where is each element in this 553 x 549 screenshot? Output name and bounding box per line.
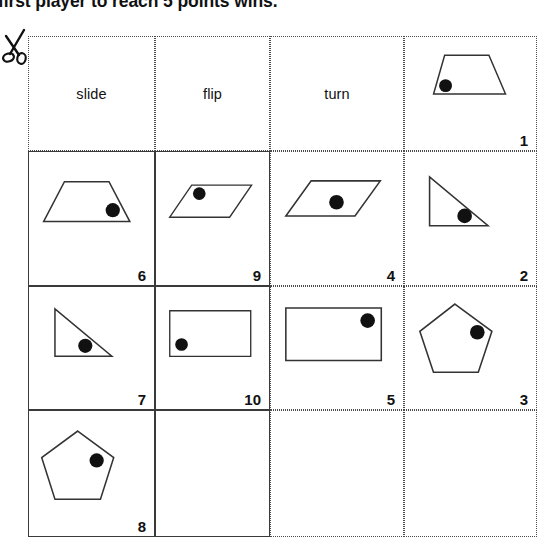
orientation-dot: [439, 79, 452, 92]
card-number: 1: [520, 133, 528, 148]
card-number: 7: [138, 392, 146, 407]
header-label: slide: [76, 86, 106, 102]
empty-cell-r3c3: [404, 410, 537, 537]
card-number: 2: [520, 268, 528, 283]
shape-right-triangle-7: [29, 287, 154, 409]
orientation-dot: [457, 209, 472, 224]
shape-pentagon-8: [29, 411, 154, 536]
orientation-dot: [106, 203, 120, 217]
shape-trapezoid-1: [405, 37, 536, 150]
shape-right-triangle-2: [405, 152, 536, 285]
card-number: 4: [387, 268, 395, 283]
orientation-dot: [329, 195, 344, 210]
card-cell-9: 9: [155, 151, 270, 286]
card-cell-10: 10: [155, 286, 270, 410]
orientation-dot: [78, 339, 92, 353]
orientation-dot: [470, 325, 485, 340]
card-cell-3: 3: [404, 286, 537, 410]
card-number: 8: [138, 519, 146, 534]
shape-rectangle-5: [271, 287, 403, 409]
orientation-dot: [193, 187, 206, 200]
card-cell-5: 5: [270, 286, 404, 410]
card-cell-8: 8: [28, 410, 155, 537]
top-instruction-text: first player to reach 5 points wins.: [0, 0, 553, 12]
header-cell-flip: flip: [155, 36, 270, 151]
shapes-grid: slideflipturn16942710538: [28, 36, 537, 537]
card-number: 5: [387, 392, 395, 407]
top-instruction: first player to reach 5 points wins.: [0, 0, 553, 15]
shape-pentagon-3: [405, 287, 536, 409]
card-number: 9: [253, 268, 261, 283]
orientation-dot: [360, 313, 375, 328]
card-cell-6: 6: [28, 151, 155, 286]
card-number: 3: [520, 392, 528, 407]
orientation-dot: [175, 338, 188, 351]
scissors-icon: [2, 28, 30, 68]
card-cell-1: 1: [404, 36, 537, 151]
card-cell-2: 2: [404, 151, 537, 286]
header-label: flip: [203, 86, 222, 102]
orientation-dot: [90, 453, 104, 467]
card-number: 10: [244, 392, 261, 407]
card-cell-4: 4: [270, 151, 404, 286]
shape-outline: [42, 431, 114, 499]
shape-outline: [170, 185, 252, 217]
empty-cell-r3c1: [155, 410, 270, 537]
header-cell-turn: turn: [270, 36, 404, 151]
card-cell-7: 7: [28, 286, 155, 410]
shape-parallelogram-4: [271, 152, 403, 285]
shape-trapezoid-6: [29, 152, 154, 285]
empty-cell-r3c2: [270, 410, 404, 537]
shape-parallelogram-9: [156, 152, 269, 285]
header-cell-slide: slide: [28, 36, 155, 151]
card-number: 6: [138, 268, 146, 283]
header-label: turn: [324, 86, 349, 102]
